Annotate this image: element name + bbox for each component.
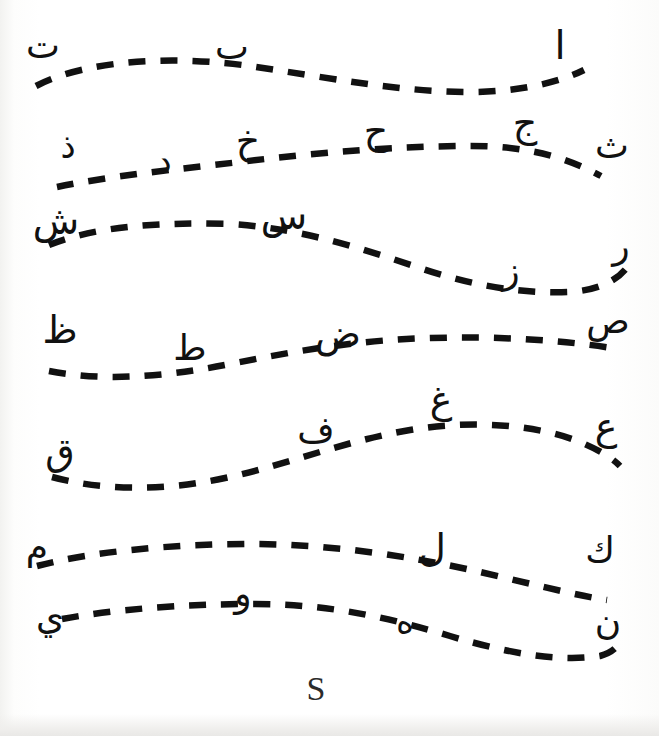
letter-seen: س [261, 197, 307, 235]
worksheet-page: ابتثجحخدذرزسشصضطظعغفقكلمنهوي S [0, 0, 659, 736]
letter-waw: و [234, 576, 251, 612]
row-5-guide-path [52, 425, 620, 488]
letter-jeem: ج [513, 104, 538, 142]
letter-ghayn: غ [430, 381, 453, 419]
row-1-guide-path [36, 61, 584, 92]
letter-ba: ب [215, 29, 249, 65]
letter-dad: ض [315, 315, 361, 353]
letter-dha: ظ [42, 311, 77, 349]
row-6-guide-path [37, 544, 607, 600]
letter-alif: ا [554, 25, 565, 65]
letter-meem: م [26, 529, 48, 565]
letter-noon: ن [595, 604, 621, 640]
row-7-guide-path [62, 604, 622, 658]
letter-kaf: ك [585, 532, 615, 568]
letter-lam: ل [418, 529, 446, 567]
letter-qaf: ق [45, 433, 74, 471]
row-3-guide-path [49, 224, 628, 293]
letter-ha: ه [396, 604, 414, 638]
letter-thal: ذ [60, 129, 75, 163]
letter-hha: ح [364, 112, 389, 150]
letter-zay: ز [502, 253, 519, 289]
letter-ayn: ع [595, 408, 618, 446]
letter-ya: ي [36, 599, 64, 635]
letter-dal: د [156, 144, 171, 178]
letter-fa: ف [297, 412, 334, 448]
row-2-guide-path [57, 146, 601, 187]
letter-sheen: ش [33, 202, 79, 240]
letter-sad: ص [586, 303, 630, 339]
handwritten-s-mark: S [307, 672, 326, 706]
letter-tha: ث [595, 128, 629, 164]
letter-tta: ط [173, 330, 206, 366]
letter-kha: خ [236, 122, 261, 160]
letter-ra: ر [612, 228, 629, 264]
dashed-guide-lines [0, 0, 659, 736]
letter-ta: ت [26, 28, 60, 64]
